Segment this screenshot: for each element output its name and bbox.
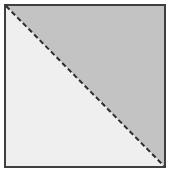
square-diagonal-figure bbox=[0, 0, 171, 174]
figure-canvas: Square divided by a dashed diagonal bbox=[0, 0, 171, 174]
